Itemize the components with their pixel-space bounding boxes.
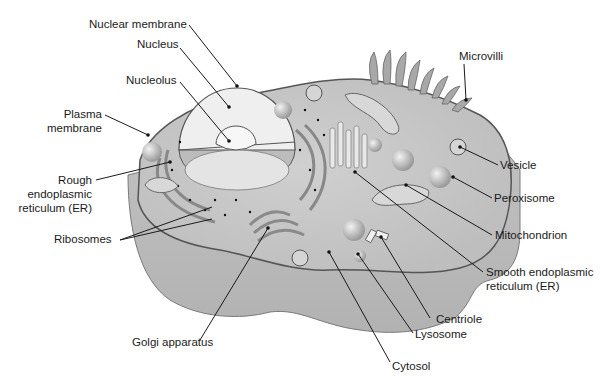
label-nucleus: Nucleus bbox=[137, 37, 179, 51]
label-ribosomes: Ribosomes bbox=[54, 232, 112, 246]
label-vesicle: Vesicle bbox=[500, 158, 536, 172]
label-smooth-er-line2: reticulum (ER) bbox=[486, 279, 559, 293]
cell-body bbox=[128, 50, 520, 332]
label-microvilli: Microvilli bbox=[459, 49, 503, 63]
label-rough-er-line1: Rough bbox=[40, 173, 92, 187]
label-rough-er-line2: endoplasmic bbox=[20, 187, 92, 201]
label-peroxisome: Peroxisome bbox=[494, 191, 555, 205]
label-centriole: Centriole bbox=[436, 312, 482, 326]
label-cytosol: Cytosol bbox=[392, 359, 430, 373]
label-lysosome: Lysosome bbox=[415, 327, 467, 341]
label-rough-er-line3: reticulum (ER) bbox=[10, 201, 92, 215]
label-plasma-membrane-line1: Plasma bbox=[60, 107, 102, 121]
label-nucleolus: Nucleolus bbox=[126, 73, 177, 87]
label-mitochondrion: Mitochondrion bbox=[495, 228, 567, 242]
label-plasma-membrane-line2: membrane bbox=[44, 121, 102, 135]
label-golgi-apparatus: Golgi apparatus bbox=[132, 335, 213, 349]
label-smooth-er-line1: Smooth endoplasmic bbox=[486, 265, 593, 279]
label-nuclear-membrane: Nuclear membrane bbox=[89, 17, 187, 31]
